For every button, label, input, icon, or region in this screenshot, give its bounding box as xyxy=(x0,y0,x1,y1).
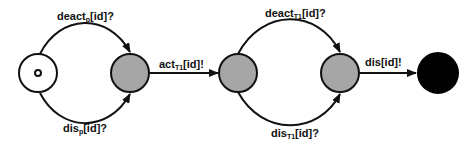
edge-dis-t1 xyxy=(238,92,340,125)
state-diagram: deactp[id]? disp[id]? actT1[id]! deactT1… xyxy=(0,0,476,149)
label-dis-p: disp[id]? xyxy=(63,122,107,138)
label-deact-p: deactp[id]? xyxy=(57,10,114,26)
edge-deact-p xyxy=(40,23,130,54)
state-node-3 xyxy=(321,54,359,92)
final-state-node xyxy=(418,53,458,93)
label-dis-t1: disT1[id]? xyxy=(271,127,319,143)
initial-state-marker-icon xyxy=(35,70,41,76)
state-node-1 xyxy=(111,54,149,92)
edge-dis-p xyxy=(40,93,130,123)
edge-deact-t1 xyxy=(238,19,340,54)
label-deact-t1: deactT1[id]? xyxy=(265,7,326,23)
label-dis: dis[id]! xyxy=(365,56,402,72)
label-act-t1: actT1[id]! xyxy=(159,58,204,74)
state-node-2 xyxy=(219,54,257,92)
